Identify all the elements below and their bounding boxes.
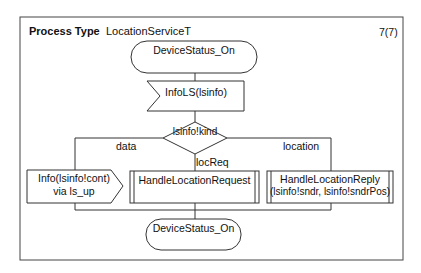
branch-label-data: data bbox=[116, 140, 136, 152]
output-signal-line1: Info(lsinfo!cont) bbox=[30, 172, 118, 184]
output-signal-line2: via ls_up bbox=[30, 185, 118, 197]
decision-label: lsinfo!kind bbox=[165, 126, 225, 138]
branch-label-locreq: locReq bbox=[196, 156, 229, 168]
start-state-label: DeviceStatus_On bbox=[131, 44, 257, 56]
procedure-reply-line2: (lsinfo!sndr, lsinfo!sndrPos) bbox=[266, 186, 394, 198]
input-signal-label: InfoLS(lsinfo) bbox=[156, 86, 236, 98]
branch-label-location: location bbox=[283, 140, 319, 152]
procedure-reply-line1: HandleLocationReply bbox=[268, 173, 392, 185]
procedure-request-label: HandleLocationRequest bbox=[134, 174, 255, 186]
page-number: 7(7) bbox=[379, 26, 398, 38]
process-name: LocationServiceT bbox=[106, 25, 191, 37]
end-state-label: DeviceStatus_On bbox=[146, 222, 241, 234]
process-type-label: Process Type bbox=[29, 25, 100, 37]
